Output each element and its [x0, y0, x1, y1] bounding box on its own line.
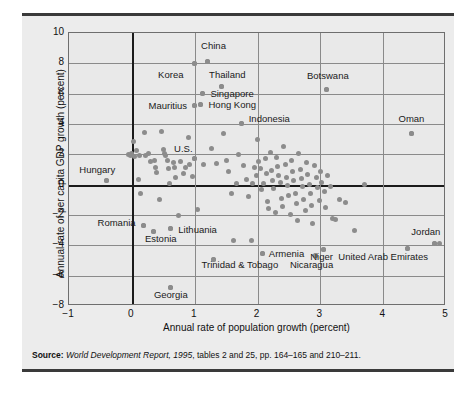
- data-point: [308, 191, 313, 196]
- data-point: [299, 176, 304, 181]
- data-point: [295, 218, 300, 223]
- data-point: [286, 193, 291, 198]
- data-point: [268, 150, 273, 155]
- x-tick-label: 1: [179, 308, 209, 319]
- gridline-y--6: [69, 276, 444, 277]
- point-label-thailand: Thailand: [209, 70, 245, 80]
- data-point: [261, 181, 266, 186]
- data-point: [305, 172, 310, 177]
- data-point-united-arab-emirates: [405, 246, 410, 251]
- data-point: [244, 177, 249, 182]
- gridline-y--4: [69, 245, 444, 246]
- data-point: [259, 187, 264, 192]
- data-point: [154, 170, 159, 175]
- data-point: [178, 159, 183, 164]
- data-point: [229, 191, 234, 196]
- point-label-oman: Oman: [399, 114, 425, 124]
- x-tick-label: 3: [304, 308, 334, 319]
- data-point: [273, 210, 278, 215]
- point-label-nicaragua: Nicaragua: [290, 260, 333, 270]
- point-label-georgia: Georgia: [154, 290, 188, 300]
- data-point: [264, 171, 269, 176]
- x-tick-label: −1: [53, 308, 83, 319]
- y-tick-label: 4: [38, 118, 64, 128]
- data-point: [274, 155, 279, 160]
- data-point: [318, 169, 323, 174]
- data-point: [186, 135, 191, 140]
- y-tick-label: 10: [38, 27, 64, 37]
- gridline-y-6: [69, 94, 444, 95]
- data-point: [300, 184, 305, 189]
- data-point: [271, 186, 276, 191]
- x-tick-label: 5: [430, 308, 460, 319]
- point-label-trinidad-tobago: Trinidad & Tobago: [202, 260, 279, 270]
- data-point: [319, 180, 324, 185]
- data-point: [224, 158, 229, 163]
- data-point-oman: [409, 131, 414, 136]
- data-point: [157, 197, 162, 202]
- data-point-singapore: [200, 91, 205, 96]
- source-note: Source: World Development Report, 1995, …: [32, 350, 444, 361]
- data-point: [221, 131, 226, 136]
- data-point: [159, 129, 164, 134]
- data-point: [187, 162, 192, 167]
- data-point: [325, 173, 330, 178]
- point-label-estonia: Estonia: [145, 234, 177, 244]
- data-point: [249, 238, 254, 243]
- y-tick-label: −4: [38, 239, 64, 249]
- data-point-lithuania: [168, 226, 173, 231]
- data-point: [337, 197, 342, 202]
- data-point: [165, 158, 170, 163]
- data-point: [136, 177, 141, 182]
- gridline-y-4: [69, 124, 444, 125]
- point-label-u-s: U.S.: [174, 144, 192, 154]
- point-label-china: China: [201, 41, 226, 51]
- data-point: [138, 191, 143, 196]
- data-point: [142, 130, 147, 135]
- point-label-hungary: Hungary: [79, 165, 115, 175]
- data-point: [333, 217, 338, 222]
- data-point: [309, 203, 314, 208]
- data-point: [176, 213, 181, 218]
- point-label-jordan: Jordan: [411, 227, 440, 237]
- gridline-x-0: [132, 33, 134, 304]
- source-label: Source:: [32, 350, 64, 360]
- source-title: World Development Report, 1995: [66, 350, 192, 360]
- data-point: [280, 204, 285, 209]
- point-label-lithuania: Lithuania: [178, 225, 217, 235]
- data-point: [303, 208, 308, 213]
- y-tick-label: 8: [38, 57, 64, 67]
- data-point: [317, 198, 322, 203]
- data-point: [279, 196, 284, 201]
- point-label-botswana: Botswana: [307, 71, 349, 81]
- data-point: [131, 139, 136, 144]
- point-label-hong-kong: Hong Kong: [208, 100, 256, 110]
- data-point: [328, 184, 333, 189]
- data-point: [298, 167, 303, 172]
- data-point: [201, 162, 206, 167]
- x-axis-label: Annual rate of population growth (percen…: [68, 322, 445, 333]
- x-axis-ticks: −1012345: [68, 308, 445, 322]
- data-point: [269, 168, 274, 173]
- data-point: [190, 174, 195, 179]
- data-point: [310, 221, 315, 226]
- data-point: [163, 153, 168, 158]
- data-point: [291, 178, 296, 183]
- bottom-rule: [22, 369, 454, 372]
- data-point: [236, 152, 241, 157]
- data-point-indonesia: [239, 121, 244, 126]
- data-point: [312, 163, 317, 168]
- data-point: [301, 197, 306, 202]
- data-point: [181, 171, 186, 176]
- data-point: [172, 165, 177, 170]
- data-point-mauritius: [192, 103, 197, 108]
- y-tick-label: 2: [38, 148, 64, 158]
- data-point: [314, 175, 319, 180]
- y-tick-label: 0: [38, 179, 64, 189]
- data-point: [241, 163, 246, 168]
- data-point: [290, 169, 295, 174]
- data-point: [231, 238, 236, 243]
- data-point-jordan: [432, 241, 437, 246]
- y-axis-ticks: −8−6−4−20246810: [36, 32, 64, 305]
- data-point: [214, 161, 219, 166]
